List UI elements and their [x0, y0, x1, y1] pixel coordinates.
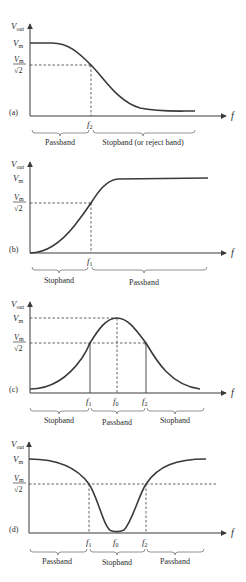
y-axis-label: Vout — [11, 299, 25, 310]
freq-marker-f1: f1 — [86, 537, 92, 548]
passband-brace — [91, 408, 145, 414]
svg-text:Vm: Vm — [14, 193, 24, 202]
cutoff-point-marker: × — [87, 340, 91, 348]
vm-root2-label: Vm √2 — [13, 193, 26, 213]
vm-label: Vm — [13, 313, 24, 324]
vm-root2-label: Vm √2 — [13, 474, 26, 494]
stopband-brace — [90, 549, 145, 555]
freq-marker-f0: f0 — [113, 537, 119, 548]
y-axis-label: Vout — [11, 159, 25, 170]
vm-label: Vm — [13, 173, 24, 184]
vm-root2-label: Vm √2 — [13, 333, 26, 353]
svg-text:Vm: Vm — [14, 333, 24, 342]
response-curve — [30, 43, 195, 111]
freq-marker-f2: f2 — [142, 396, 148, 407]
vm-label: Vm — [13, 454, 24, 465]
svg-text:√2: √2 — [14, 204, 22, 213]
band-label-stopband: Stopband — [102, 558, 132, 567]
stopband-brace — [147, 408, 204, 414]
panel-a-low-pass: Vout f Vm Vm √2 × (a) f2 Passband Stopba… — [9, 21, 235, 147]
band-label-stopband: Stopband — [160, 416, 190, 425]
band-label-stopband: Stopband (or reject band) — [102, 138, 184, 147]
x-axis-label: f — [231, 247, 235, 258]
svg-text:√2: √2 — [14, 485, 22, 494]
passband-brace — [147, 549, 204, 555]
cutoff-point-marker: × — [88, 62, 92, 70]
panel-tag: (c) — [9, 385, 18, 394]
band-label-passband: Passband — [160, 557, 190, 566]
stopband-brace — [93, 130, 195, 136]
band-label-passband: Passband — [42, 557, 72, 566]
panel-d-band-stop: Vout f Vm Vm √2 (d) f1 f0 f2 Passband St… — [9, 439, 235, 567]
vm-label: Vm — [13, 38, 24, 49]
band-label-passband: Passband — [102, 418, 132, 427]
cutoff-point-marker: × — [143, 340, 147, 348]
svg-text:Vm: Vm — [14, 474, 24, 483]
freq-marker-f2: f2 — [87, 119, 93, 130]
band-label-stopband: Stopband — [44, 276, 74, 285]
band-label-stopband: Stopband — [44, 416, 74, 425]
panel-tag: (b) — [9, 245, 19, 254]
vm-root2-label: Vm √2 — [13, 55, 26, 75]
response-curve — [30, 318, 200, 389]
filter-response-diagram: Vout f Vm Vm √2 × (a) f2 Passband Stopba… — [0, 0, 246, 582]
panel-tag: (a) — [9, 108, 18, 117]
svg-text:√2: √2 — [14, 66, 22, 75]
x-axis-label: f — [231, 527, 235, 538]
x-axis-label: f — [231, 110, 235, 121]
panel-c-band-pass: Vout f Vm Vm √2 × × (c) f1 f0 f2 Stopban… — [9, 299, 235, 427]
freq-marker-f0: f0 — [113, 396, 119, 407]
freq-marker-f1: f1 — [87, 256, 93, 267]
band-label-passband: Passband — [129, 278, 159, 287]
passband-brace — [30, 549, 87, 555]
x-axis-label: f — [231, 387, 235, 398]
cutoff-point-marker: × — [88, 200, 92, 208]
freq-marker-f1: f1 — [86, 396, 92, 407]
passband-brace — [32, 130, 89, 136]
svg-text:Vm: Vm — [14, 55, 24, 64]
stopband-brace — [32, 267, 88, 273]
passband-brace — [92, 267, 207, 273]
svg-text:√2: √2 — [14, 344, 22, 353]
y-axis-label: Vout — [11, 439, 25, 450]
response-curve — [30, 178, 208, 253]
stopband-brace — [30, 408, 89, 414]
panel-tag: (d) — [9, 525, 19, 534]
y-axis-label: Vout — [11, 21, 25, 32]
panel-b-high-pass: Vout f Vm Vm √2 × (b) f1 Stopband Passba… — [9, 159, 235, 287]
response-curve — [29, 459, 206, 532]
freq-marker-f2: f2 — [142, 537, 148, 548]
band-label-passband: Passband — [45, 138, 75, 147]
